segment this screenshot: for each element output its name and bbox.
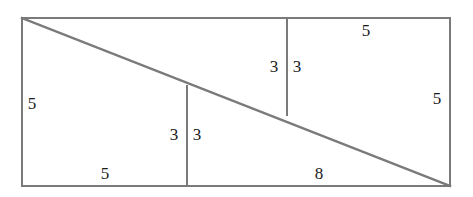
diagonal-line <box>22 18 450 186</box>
bottom-left-segment-length: 5 <box>101 165 110 182</box>
upper-step-right-height: 3 <box>293 58 302 75</box>
left-side-length: 5 <box>28 95 37 112</box>
lower-step-left-height: 3 <box>170 126 179 143</box>
diagram-canvas <box>0 0 473 197</box>
top-right-segment-length: 5 <box>362 22 371 39</box>
right-side-length: 5 <box>433 90 442 107</box>
lower-step-right-height: 3 <box>193 126 202 143</box>
bottom-right-segment-length: 8 <box>315 165 324 182</box>
geometry-diagram: 555583333 <box>0 0 473 197</box>
upper-step-left-height: 3 <box>270 58 279 75</box>
